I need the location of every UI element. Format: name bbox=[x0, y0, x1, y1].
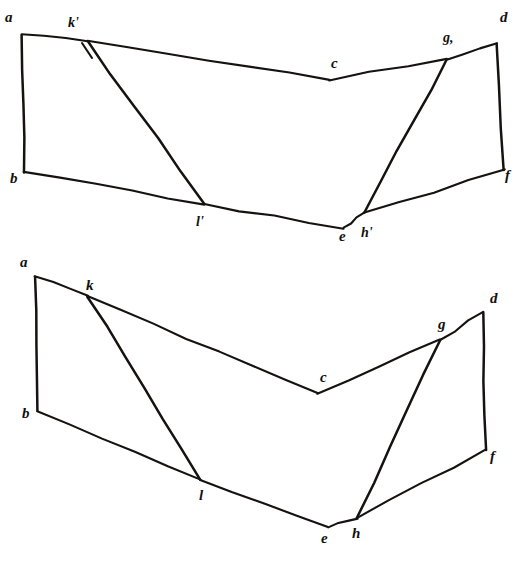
vertex-label-b-upper: b bbox=[10, 170, 18, 186]
vertex-label-c-upper: c bbox=[331, 55, 338, 71]
vertex-label-b-lower: b bbox=[22, 405, 30, 421]
vertex-label-a-upper: a bbox=[5, 9, 13, 25]
vertex-label-e-upper: e bbox=[339, 228, 346, 244]
vertex-label-h-lower: h bbox=[352, 525, 360, 541]
vertex-label-h-prime-upper: h' bbox=[361, 225, 373, 240]
vertex-label-k-lower: k bbox=[86, 277, 94, 293]
vertex-label-c-lower: c bbox=[320, 369, 327, 385]
vertex-label-d-lower: d bbox=[490, 290, 498, 306]
vertex-label-d-upper: d bbox=[500, 9, 508, 25]
vertex-label-g-lower: g bbox=[437, 316, 446, 332]
diagram-plate: ak'cg,dbl'eh'f akcgdblehf bbox=[0, 0, 523, 566]
vertex-label-l-prime-upper: l' bbox=[196, 214, 204, 229]
vertex-label-e-lower: e bbox=[321, 530, 328, 546]
plate-svg: ak'cg,dbl'eh'f akcgdblehf bbox=[0, 0, 523, 566]
vertex-label-a-lower: a bbox=[20, 254, 28, 270]
vertex-label-k-prime-upper: k' bbox=[68, 15, 79, 30]
vertex-label-g-prime-upper: g, bbox=[442, 30, 454, 45]
plate-background bbox=[0, 0, 523, 566]
